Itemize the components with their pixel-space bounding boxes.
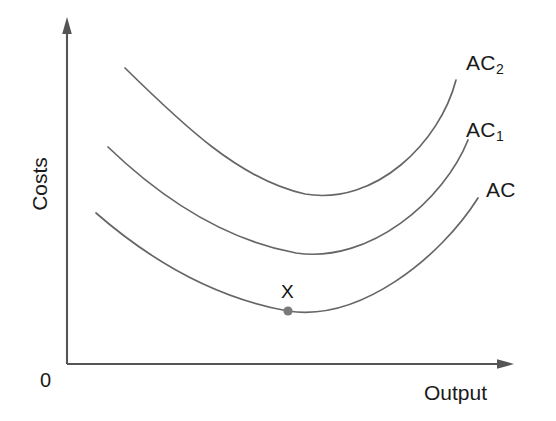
cost-curves-figure: AC2 AC1 AC X 0 Output Costs [0,0,556,421]
curve-label-ac1-base: AC [466,118,496,141]
point-x-marker [283,306,292,315]
origin-label: 0 [40,369,51,392]
point-x-label: X [281,281,294,303]
curve-label-ac1-subscript: 1 [496,128,504,144]
curve-label-ac2-subscript: 2 [496,61,504,77]
y-axis-arrowhead [62,17,72,34]
curve-ac1 [108,140,468,254]
curve-label-ac: AC [486,178,516,202]
x-axis-label: Output [424,381,487,405]
curve-label-ac2: AC2 [466,51,504,75]
y-axis-label: Costs [28,139,52,229]
x-axis-arrowhead [497,359,514,369]
curve-label-ac1: AC1 [466,118,504,142]
curve-ac2 [125,68,456,195]
curve-label-ac2-base: AC [466,51,496,74]
